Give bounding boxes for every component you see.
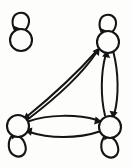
isolated-node[interactable] [10,29,32,51]
edge-bottomleft-to-bottomright [28,116,102,125]
edge-bottomright-to-topright [102,50,110,115]
graph-canvas [0,0,132,167]
bottom-left-node[interactable] [7,115,29,137]
edge-topright-to-bottomright [110,53,118,119]
directed-graph-figure [0,0,132,167]
top-right-node[interactable] [97,31,119,53]
edge-bottomright-to-bottomleft [25,128,100,137]
edge-topright-to-bottomleft [23,50,98,120]
bottom-right-node[interactable] [99,116,121,138]
